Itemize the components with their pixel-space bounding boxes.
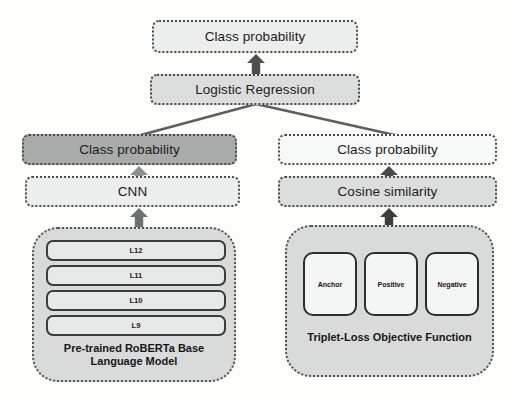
node-top-class-probability[interactable]: Class probability bbox=[152, 20, 358, 53]
node-label: Class probability bbox=[79, 142, 180, 157]
chip-negative[interactable]: Negative bbox=[425, 252, 479, 316]
node-label: Class probability bbox=[337, 142, 438, 157]
layer-bar[interactable]: L10 bbox=[46, 290, 226, 311]
group-caption-triplet: Triplet-Loss Objective Function bbox=[287, 331, 492, 344]
chip-label: Positive bbox=[378, 281, 405, 288]
node-right-class-probability[interactable]: Class probability bbox=[278, 134, 497, 165]
group-roberta-base: L12 L11 L10 L9 Pre-trained RoBERTa Base … bbox=[32, 227, 236, 382]
caption-line-1: Pre-trained RoBERTa Base bbox=[34, 342, 234, 355]
chip-anchor[interactable]: Anchor bbox=[303, 252, 357, 316]
chip-label: Anchor bbox=[318, 281, 343, 288]
node-cnn[interactable]: CNN bbox=[25, 176, 240, 207]
node-label: Cosine similarity bbox=[338, 184, 438, 199]
arrow-up-icon-roberta-to-cnn bbox=[130, 208, 148, 228]
chip-positive[interactable]: Positive bbox=[364, 252, 418, 316]
layer-bar[interactable]: L12 bbox=[46, 240, 226, 261]
layer-bar[interactable]: L11 bbox=[46, 265, 226, 286]
layer-label: L12 bbox=[129, 246, 142, 255]
group-triplet-loss: Anchor Positive Negative Triplet-Loss Ob… bbox=[285, 225, 494, 377]
arrow-up-icon-logreg-to-top bbox=[247, 54, 265, 74]
layer-label: L9 bbox=[132, 321, 141, 330]
caption-line-1: Triplet-Loss Objective Function bbox=[287, 331, 492, 344]
layer-label: L11 bbox=[130, 271, 143, 280]
caption-line-2: Language Model bbox=[34, 355, 234, 368]
diagram-canvas: Class probability Logistic Regression Cl… bbox=[0, 0, 511, 395]
group-caption-roberta: Pre-trained RoBERTa Base Language Model bbox=[34, 342, 234, 369]
node-cosine-similarity[interactable]: Cosine similarity bbox=[278, 176, 497, 207]
node-logistic-regression[interactable]: Logistic Regression bbox=[150, 74, 360, 105]
node-label: CNN bbox=[118, 184, 148, 199]
layer-label: L10 bbox=[129, 296, 142, 305]
node-label: Class probability bbox=[205, 29, 306, 44]
node-left-class-probability[interactable]: Class probability bbox=[22, 134, 237, 165]
layer-bar[interactable]: L9 bbox=[46, 315, 226, 336]
node-label: Logistic Regression bbox=[195, 82, 315, 97]
chip-label: Negative bbox=[437, 281, 466, 288]
